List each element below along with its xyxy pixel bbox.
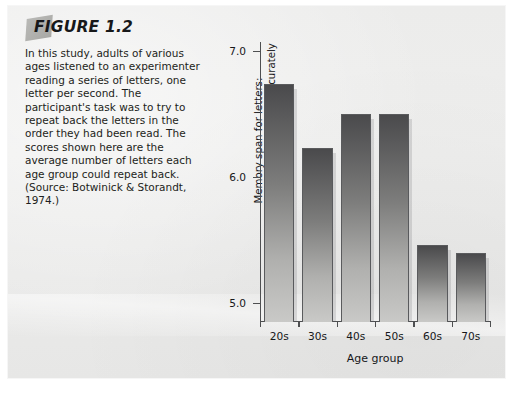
figure-title-wrap: FIGURE 1.2 (25, 16, 205, 44)
x-axis-tick (452, 321, 453, 327)
bar-50s (379, 114, 410, 322)
figure-root: FIGURE 1.2 In this study, adults of vari… (0, 0, 513, 396)
x-axis-tick (413, 321, 414, 327)
bar-30s (302, 148, 333, 322)
y-axis-tick (253, 177, 261, 178)
bar-40s (341, 114, 372, 322)
x-axis-tick-label: 40s (346, 330, 365, 342)
figure-caption-text: In this study, adults of various ages li… (25, 47, 201, 208)
x-axis-tick-label: 30s (308, 330, 327, 342)
x-axis-tick (490, 321, 491, 327)
bars-layer (260, 32, 490, 322)
figure-caption-block: FIGURE 1.2 In this study, adults of vari… (25, 16, 205, 208)
y-axis-tick (253, 303, 261, 304)
y-axis-tick-label: 7.0 (212, 45, 246, 57)
y-axis-tick (253, 51, 261, 52)
x-axis-tick-label: 20s (270, 330, 289, 342)
figure-panel: FIGURE 1.2 In this study, adults of vari… (8, 6, 505, 378)
x-axis-tick-label: 70s (461, 330, 480, 342)
bar-60s (417, 245, 448, 322)
plot-area: 5.06.07.0 20s30s40s50s60s70s (260, 32, 496, 352)
y-axis-tick-label: 5.0 (212, 297, 246, 309)
x-axis-tick (260, 321, 261, 327)
bar-20s (264, 84, 295, 322)
x-axis-title: Age group (260, 352, 490, 365)
bar-70s (456, 253, 487, 322)
bar-chart: Memory span for letters: number of lette… (204, 32, 504, 377)
x-axis-tick-label: 60s (423, 330, 442, 342)
y-axis-tick-label: 6.0 (212, 171, 246, 183)
x-axis-tick-label: 50s (385, 330, 404, 342)
x-axis-tick (298, 321, 299, 327)
figure-title: FIGURE 1.2 (34, 18, 133, 36)
x-axis-tick (375, 321, 376, 327)
x-axis-tick (337, 321, 338, 327)
